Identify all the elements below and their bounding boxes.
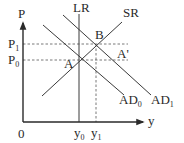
ad0-label: AD0 (119, 92, 142, 109)
y-axis-label: P (18, 6, 25, 21)
axes (23, 23, 143, 122)
point-a-label: A (64, 56, 74, 71)
dashed-guides (23, 44, 128, 122)
point-a-prime-label: A' (117, 46, 129, 61)
lr-label: LR (73, 0, 90, 15)
x-axis-label: y (148, 113, 155, 128)
ad1-curve (63, 15, 151, 95)
origin-label: 0 (18, 126, 25, 141)
ad-as-diagram: P y 0 P1 P0 y0 y1 LR SR AD0 AD1 A B A' (0, 0, 184, 143)
ad1-label: AD1 (151, 92, 174, 109)
point-b-label: B (95, 27, 104, 42)
p1-label: P1 (8, 36, 19, 53)
y1-label: y1 (91, 125, 102, 142)
p0-label: P0 (8, 52, 19, 69)
y0-label: y0 (74, 125, 85, 142)
sr-label: SR (123, 5, 139, 20)
